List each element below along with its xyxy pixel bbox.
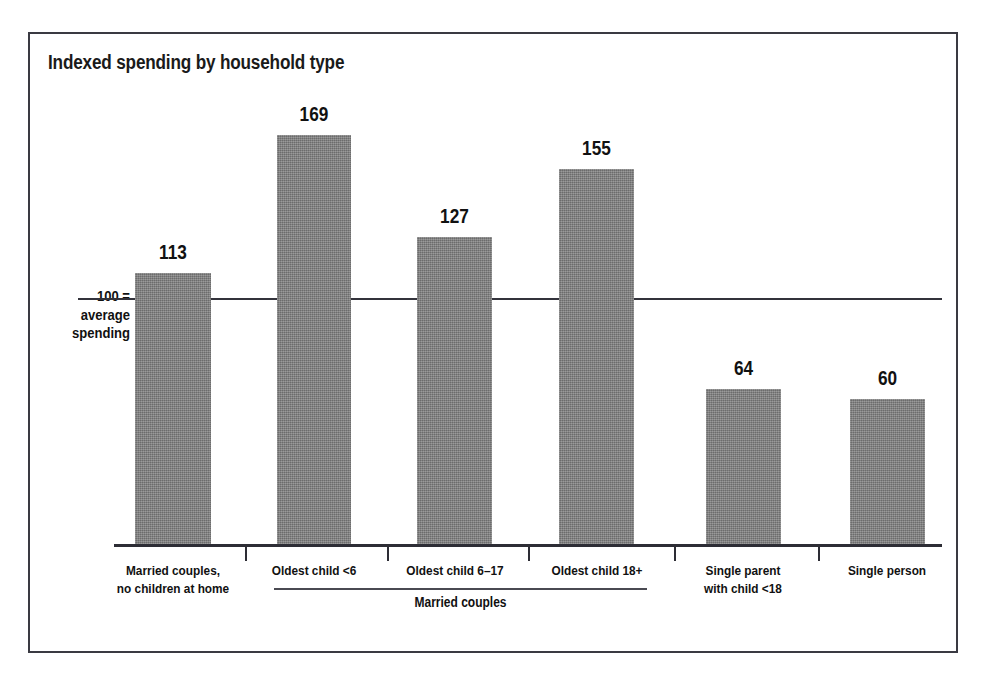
bar-single-person[interactable]	[850, 399, 925, 544]
bar-oldest-child-18-plus[interactable]	[559, 169, 634, 544]
category-label-line: no children at home	[112, 580, 234, 598]
category-label-oldest-child-6-17: Oldest child 6–17	[394, 562, 516, 580]
category-label-line: Single person	[826, 562, 948, 580]
bar-value-label: 169	[284, 102, 345, 126]
bar-married-no-children[interactable]	[135, 273, 211, 544]
axis-tick	[387, 547, 389, 561]
axis-tick	[674, 547, 676, 561]
axis-tick	[245, 547, 247, 561]
category-label-line: with child <18	[682, 580, 804, 598]
category-label-oldest-child-under-6: Oldest child <6	[253, 562, 375, 580]
bar-oldest-child-under-6[interactable]	[277, 135, 351, 544]
bar-value-label: 60	[857, 366, 919, 390]
category-label-married-no-children: Married couples, no children at home	[112, 562, 234, 598]
chart-figure-frame: Indexed spending by household type 100 =…	[28, 32, 958, 653]
bar-value-label: 127	[424, 204, 486, 228]
category-label-line: Single parent	[682, 562, 804, 580]
category-label-line: Oldest child 6–17	[394, 562, 516, 580]
category-label-line: Oldest child 18+	[536, 562, 658, 580]
bar-value-label: 64	[713, 356, 775, 380]
category-label-single-parent: Single parent with child <18	[682, 562, 804, 598]
group-bracket-line	[274, 588, 647, 590]
axis-tick	[528, 547, 530, 561]
category-label-line: Oldest child <6	[253, 562, 375, 580]
group-bracket-label: Married couples	[298, 595, 623, 610]
plot-area: 100 = average spending 113 169 127 155 6…	[30, 34, 956, 651]
category-label-line: Married couples,	[112, 562, 234, 580]
bar-value-label: 155	[566, 136, 628, 160]
bar-oldest-child-6-17[interactable]	[417, 237, 492, 544]
category-label-oldest-child-18-plus: Oldest child 18+	[536, 562, 658, 580]
bar-single-parent-child-under-18[interactable]	[706, 389, 781, 544]
axis-tick	[818, 547, 820, 561]
category-label-single-person: Single person	[826, 562, 948, 580]
bar-value-label: 113	[142, 240, 204, 264]
